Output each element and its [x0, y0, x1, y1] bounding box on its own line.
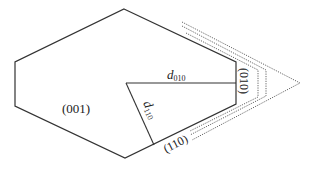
face-001-label: (001) [62, 101, 90, 116]
d010-label: d010 [167, 67, 186, 83]
face-110-label: (110) [161, 132, 190, 156]
crystal-facet-diagram: (001) d010 d110 (010) (110) [0, 0, 312, 170]
d110-label: d110 [139, 98, 161, 121]
face-010-label: (010) [237, 68, 251, 94]
